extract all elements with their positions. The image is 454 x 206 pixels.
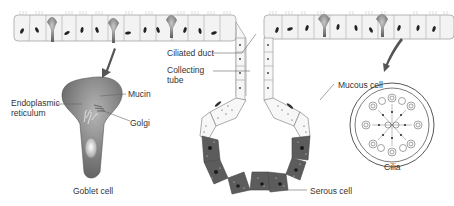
label-collecting-tube-line2: tube [167, 75, 184, 85]
serous-cells [202, 136, 310, 194]
label-serous-cell: Serous cell [310, 186, 352, 196]
epithelium-left [14, 11, 236, 43]
label-ciliated-duct: Ciliated duct [167, 48, 214, 58]
goblet-cell-large [62, 77, 122, 178]
label-mucous-cell: Mucous cell [338, 80, 383, 90]
gland-acinus [200, 98, 310, 194]
diagram-canvas [0, 0, 454, 206]
arrows [102, 38, 403, 78]
label-endoplasmic-reticulum-line2: reticulum [11, 108, 45, 118]
label-mucin: Mucin [128, 89, 151, 99]
label-golgi: Golgi [130, 118, 150, 128]
label-collecting-tube-line1: Collecting [167, 65, 204, 75]
cilia-cross-section [350, 83, 434, 167]
label-cilia: Cilia [384, 162, 401, 172]
epithelium-right [264, 11, 454, 39]
label-goblet-cell: Goblet cell [73, 186, 113, 196]
label-endoplasmic-reticulum-line1: Endoplasmic [11, 98, 60, 108]
